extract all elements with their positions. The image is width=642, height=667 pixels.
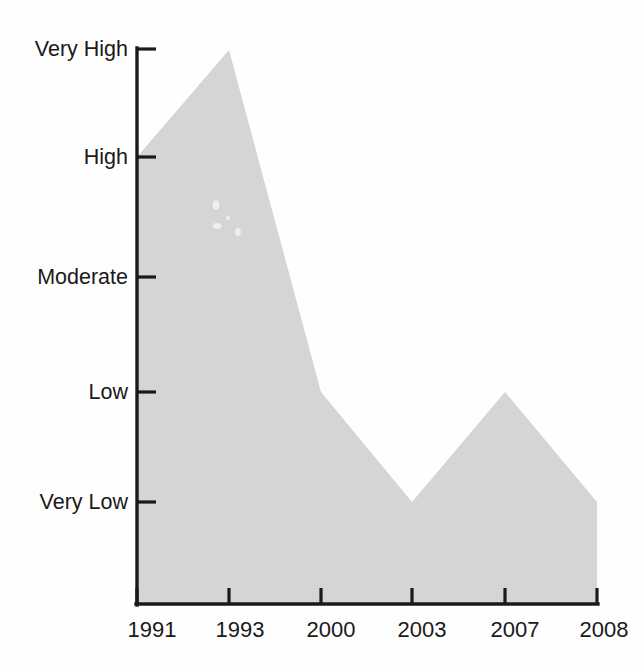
x-tick-label-2007: 2007 [491,617,540,642]
scan-speckle-icon [226,216,230,220]
y-tick-label-very-high: Very High [35,37,128,61]
y-tick-label-moderate: Moderate [37,265,128,289]
y-tick-label-high: High [84,145,128,169]
scan-speckle-icon [235,228,241,236]
x-tick-label-1991: 1991 [128,617,177,642]
area-chart-figure: Very High High Moderate Low Very Low 199… [0,0,642,667]
scan-speckle-icon [213,223,222,229]
chart-plot-area: Very High High Moderate Low Very Low 199… [0,0,642,667]
x-tick-label-2008: 2008 [580,617,629,642]
x-tick-label-2000: 2000 [307,617,356,642]
x-tick-label-1993: 1993 [216,617,265,642]
area-series-polygon [137,50,597,604]
scan-speckle-icon [212,200,219,210]
x-tick-label-2003: 2003 [398,617,447,642]
y-tick-label-low: Low [89,380,129,404]
y-tick-label-very-low: Very Low [40,490,129,514]
